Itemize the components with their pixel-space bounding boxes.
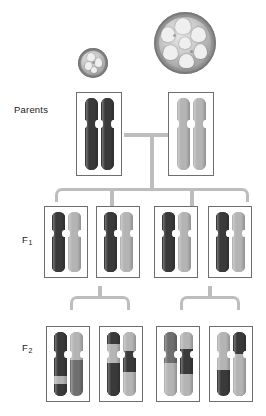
f1-label-subscript: 1: [28, 239, 32, 246]
chromosome: [52, 212, 65, 272]
small-fruit: [78, 48, 108, 78]
f2-bracket-right-stem: [208, 286, 212, 298]
f2-bracket-left: [70, 296, 130, 310]
chromosome-segment: [217, 370, 230, 396]
chromosome-segment: [178, 212, 191, 272]
chromosome-segment: [162, 212, 175, 272]
chromosome: [68, 212, 81, 272]
chromosome-segment: [216, 212, 229, 272]
f2-label-subscript: 2: [28, 347, 32, 354]
chromosome-segment: [54, 376, 67, 385]
chromosome: [178, 212, 191, 272]
f1-drop-2: [190, 190, 194, 206]
large-fruit-rind: [154, 12, 216, 74]
chromosome-segment: [70, 332, 83, 360]
chromosome-segment: [107, 363, 120, 396]
chromosome: [162, 212, 175, 272]
chromosome-segment: [123, 372, 136, 396]
chromosome-segment: [177, 98, 190, 170]
chromosome: [232, 212, 245, 272]
chromosome: [54, 332, 67, 396]
chromosome: [217, 332, 230, 396]
generation-label-f2: F2: [22, 342, 32, 353]
chromosome: [107, 332, 120, 396]
parent-box-light[interactable]: [168, 92, 214, 176]
chromosome: [164, 332, 177, 396]
chromosome-segment: [180, 332, 193, 349]
chromosome-segment: [233, 332, 246, 354]
chromosome: [180, 332, 193, 396]
chromosome-segment: [120, 212, 133, 272]
parent-box-dark[interactable]: [76, 92, 122, 176]
chromosome-segment: [107, 332, 120, 344]
f2-box-2[interactable]: [99, 326, 143, 402]
chromosome-segment: [101, 98, 114, 170]
small-fruit-rind: [78, 48, 108, 78]
f1-box-1[interactable]: [44, 206, 88, 278]
chromosome-segment: [107, 344, 120, 363]
chromosome: [85, 98, 98, 170]
chromosome: [104, 212, 117, 272]
parents-label-text: Parents: [14, 104, 48, 115]
f2-bracket-left-stem: [98, 286, 102, 298]
chromosome: [70, 332, 83, 396]
f1-distribution-bracket: [55, 188, 249, 202]
chromosome-segment: [164, 332, 177, 363]
chromosome: [177, 98, 190, 170]
chromosome-segment: [233, 354, 246, 396]
chromosome-segment: [123, 332, 136, 351]
chromosome-segment: [52, 212, 65, 272]
generation-label-parents: Parents: [14, 104, 48, 115]
chromosome-segment: [193, 98, 206, 170]
chromosome-segment: [217, 332, 230, 370]
chromosome-segment: [104, 212, 117, 272]
chromosome-segment: [70, 360, 83, 396]
f2-box-3[interactable]: [156, 326, 200, 402]
chromosome-segment: [68, 212, 81, 272]
chromosome-segment: [180, 374, 193, 396]
chromosome-segment: [232, 212, 245, 272]
chromosome-segment: [180, 349, 193, 375]
f2-bracket-right: [180, 296, 240, 310]
chromosome: [123, 332, 136, 396]
chromosome: [101, 98, 114, 170]
chromosome: [193, 98, 206, 170]
inheritance-diagram: Parents F1 F2: [0, 0, 266, 416]
parent-cross-drop: [150, 133, 154, 190]
large-fruit: [154, 12, 216, 74]
chromosome-segment: [85, 98, 98, 170]
f1-box-2[interactable]: [96, 206, 140, 278]
chromosome: [216, 212, 229, 272]
chromosome-segment: [123, 351, 136, 371]
chromosome-segment: [54, 332, 67, 376]
chromosome-segment: [164, 363, 177, 396]
chromosome-segment: [54, 384, 67, 396]
chromosome: [233, 332, 246, 396]
f1-box-3[interactable]: [154, 206, 198, 278]
chromosome: [120, 212, 133, 272]
f1-box-4[interactable]: [208, 206, 252, 278]
f1-drop-1: [110, 190, 114, 206]
f2-box-4[interactable]: [209, 326, 253, 402]
generation-label-f1: F1: [22, 234, 32, 245]
f2-box-1[interactable]: [46, 326, 90, 402]
